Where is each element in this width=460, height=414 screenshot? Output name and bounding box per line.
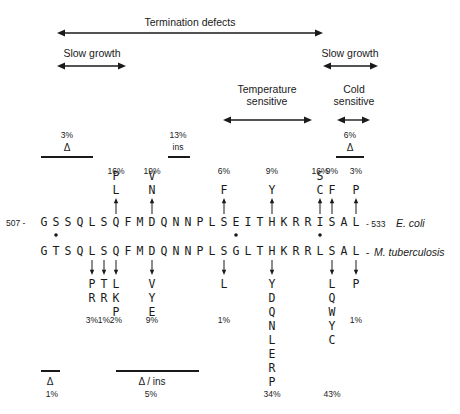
mtb-mutation-frequency: 43% xyxy=(323,389,340,399)
ecoli-residue: Q xyxy=(110,215,122,229)
mtb-mutation-arrowhead-icon xyxy=(270,270,274,275)
ecoli-residue: Q xyxy=(74,215,86,229)
mtb-residue: F xyxy=(122,244,134,258)
mtb-variant-residue: Y xyxy=(146,291,158,305)
mtb-mutation-arrowhead-icon xyxy=(330,270,334,275)
mtb-residue: L xyxy=(242,244,254,258)
ecoli-residue: L xyxy=(206,215,218,229)
cold-range-right-arrowhead-icon xyxy=(362,117,370,124)
mtb-variant-residue: R xyxy=(86,291,98,305)
ecoli-variant-residue: N xyxy=(146,183,158,197)
mtb-mutation-arrowhead-icon xyxy=(354,270,358,275)
slow-growth-right-range-left-arrowhead-icon xyxy=(323,63,331,70)
ecoli-residue: M xyxy=(134,215,146,229)
ecoli-residue: R xyxy=(302,215,314,229)
mtb-variant-residue: V xyxy=(146,277,158,291)
mtb-residue: L xyxy=(350,244,362,258)
ecoli-residue: F xyxy=(122,215,134,229)
mtb-residue: G xyxy=(230,244,242,258)
temperature-range-right-arrowhead-icon xyxy=(304,117,312,124)
mtb-variant-residue: T xyxy=(98,277,110,291)
mtb-residue: D xyxy=(146,244,158,258)
ecoli-residue: A xyxy=(338,215,350,229)
ecoli-mutation-arrowhead-icon xyxy=(270,198,274,203)
ecoli-residue: N xyxy=(170,215,182,229)
ecoli-mutation-arrowhead-icon xyxy=(330,198,334,203)
cold-range-left-arrowhead-icon xyxy=(337,117,345,124)
mtb-mutation-frequency: 1% xyxy=(98,315,110,325)
ecoli-residue: S xyxy=(98,215,110,229)
mtb-mutation-frequency: 1% xyxy=(350,315,362,325)
ecoli-residue: L xyxy=(86,215,98,229)
mtb-residue: S xyxy=(62,244,74,258)
mtb-variant-residue: C xyxy=(326,333,338,347)
ecoli-mutation-arrowhead-icon xyxy=(318,198,322,203)
mtb-mutation-arrowhead-icon xyxy=(102,270,106,275)
mtb-variant-residue: Q xyxy=(326,291,338,305)
mtb-variant-residue: L xyxy=(326,277,338,291)
mtb-variant-residue: Y xyxy=(266,277,278,291)
ecoli-residue: I xyxy=(314,215,326,229)
termination-range-left-arrowhead-icon xyxy=(57,30,65,37)
ecoli-mutation-frequency: 9% xyxy=(326,166,338,176)
mtb-mutation-arrowhead-icon xyxy=(114,270,118,275)
difference-marker-icon xyxy=(318,233,322,237)
mtb-variant-residue: P xyxy=(350,277,362,291)
mtb-residue: S xyxy=(98,244,110,258)
mtb-residue: K xyxy=(278,244,290,258)
ecoli-residue: T xyxy=(254,215,266,229)
mtb-residue: R xyxy=(302,244,314,258)
mtb-variant-residue: D xyxy=(266,291,278,305)
mtb-residue: S xyxy=(218,244,230,258)
ecoli-mutation-arrowhead-icon xyxy=(354,198,358,203)
ecoli-residue: S xyxy=(50,215,62,229)
ecoli-residue: P xyxy=(194,215,206,229)
ecoli-mutation-arrowhead-icon xyxy=(222,198,226,203)
difference-marker-icon xyxy=(234,233,238,237)
mtb-variant-residue: R xyxy=(98,291,110,305)
mtb-mutation-frequency: 2% xyxy=(110,315,122,325)
ecoli-residue: R xyxy=(290,215,302,229)
mtb-residue: R xyxy=(290,244,302,258)
mtb-variant-residue: E xyxy=(266,347,278,361)
ecoli-variant-residue: Y xyxy=(266,183,278,197)
ecoli-mutation-arrowhead-icon xyxy=(150,198,154,203)
ecoli-residue: D xyxy=(146,215,158,229)
mtb-residue: Q xyxy=(110,244,122,258)
mtb-variant-residue: L xyxy=(218,277,230,291)
mtb-residue: A xyxy=(338,244,350,258)
mtb-residue: S xyxy=(326,244,338,258)
temperature-range-left-arrowhead-icon xyxy=(223,117,231,124)
mtb-variant-residue: P xyxy=(266,375,278,389)
mtb-variant-residue: L xyxy=(266,333,278,347)
difference-marker-icon xyxy=(54,233,58,237)
ecoli-residue: I xyxy=(242,215,254,229)
mtb-mutation-arrowhead-icon xyxy=(90,270,94,275)
mtb-variant-residue: W xyxy=(326,305,338,319)
mtb-variant-residue: Y xyxy=(326,319,338,333)
mtb-residue: M xyxy=(134,244,146,258)
slow-growth-right-range-right-arrowhead-icon xyxy=(370,63,378,70)
ecoli-residue: S xyxy=(218,215,230,229)
termination-range-right-arrowhead-icon xyxy=(315,30,323,37)
ecoli-residue: S xyxy=(62,215,74,229)
ecoli-residue: G xyxy=(38,215,50,229)
ecoli-residue: N xyxy=(182,215,194,229)
ecoli-mutation-frequency: 3% xyxy=(350,166,362,176)
ecoli-residue: Q xyxy=(158,215,170,229)
mtb-residue: Q xyxy=(74,244,86,258)
mtb-residue: L xyxy=(314,244,326,258)
ecoli-mutation-frequency: 6% xyxy=(218,166,230,176)
ecoli-residue: E xyxy=(230,215,242,229)
mtb-variant-residue: Q xyxy=(266,305,278,319)
mtb-variant-residue: N xyxy=(266,319,278,333)
mtb-residue: H xyxy=(266,244,278,258)
ecoli-mutation-arrowhead-icon xyxy=(114,198,118,203)
mtb-mutation-arrowhead-icon xyxy=(150,270,154,275)
mtb-residue: L xyxy=(206,244,218,258)
mtb-residue: P xyxy=(194,244,206,258)
mtb-residue: G xyxy=(38,244,50,258)
ecoli-variant-residue: F xyxy=(218,183,230,197)
ecoli-mutation-frequency: 9% xyxy=(266,166,278,176)
ecoli-residue: L xyxy=(350,215,362,229)
